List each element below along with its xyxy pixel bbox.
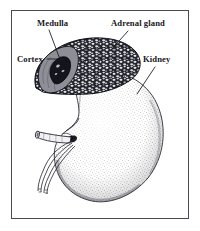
label-cortex: Cortex bbox=[17, 55, 43, 64]
label-adrenal-gland: Adrenal gland bbox=[111, 19, 165, 28]
figure-page: Medulla Adrenal gland Cortex Kidney bbox=[0, 0, 200, 231]
kidney-adrenal-illustration bbox=[0, 0, 200, 231]
label-kidney: Kidney bbox=[143, 55, 170, 64]
label-medulla: Medulla bbox=[37, 19, 68, 28]
